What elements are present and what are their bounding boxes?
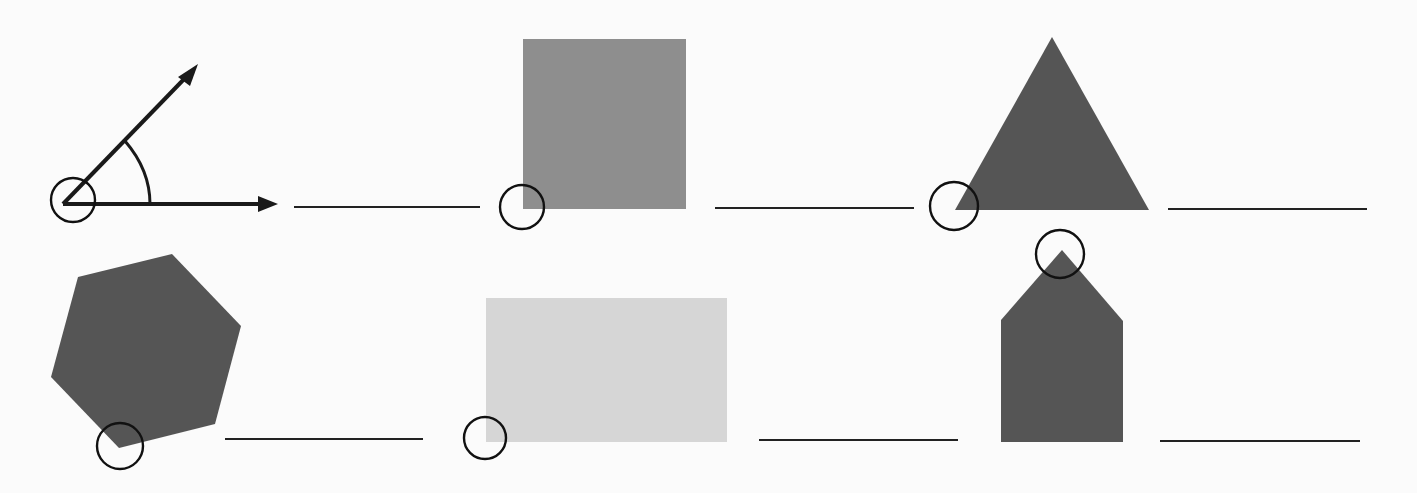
- vertex-marker-circle: [51, 178, 95, 222]
- angle-arc: [125, 141, 150, 204]
- rectangle-shape: [486, 298, 727, 442]
- item-pentagon-house: [1001, 230, 1123, 442]
- item-triangle: [930, 37, 1149, 230]
- square-shape: [523, 39, 686, 209]
- item-rectangle: [464, 298, 727, 459]
- item-angle-rays: [51, 64, 278, 222]
- item-hexagon: [51, 254, 241, 469]
- worksheet-canvas: [0, 0, 1417, 493]
- diagonal-ray: [63, 75, 188, 204]
- arrowhead-icon: [258, 196, 278, 212]
- triangle-shape: [955, 37, 1149, 210]
- item-square: [500, 39, 686, 229]
- hexagon-shape: [51, 254, 241, 448]
